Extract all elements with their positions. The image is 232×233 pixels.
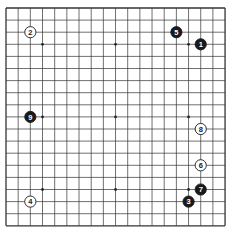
- move-number: 9: [28, 113, 32, 122]
- move-number: 6: [199, 161, 203, 170]
- white-stone: 6: [195, 160, 206, 171]
- move-number: 3: [186, 197, 190, 206]
- black-stone: 7: [195, 184, 206, 195]
- star-point: [187, 43, 190, 46]
- white-stone: 2: [25, 27, 36, 38]
- white-stone: 8: [195, 123, 206, 134]
- black-stone: 5: [171, 27, 182, 38]
- star-point: [187, 116, 190, 119]
- move-number: 5: [174, 28, 178, 37]
- star-point: [41, 43, 44, 46]
- star-point: [41, 188, 44, 191]
- star-point: [187, 188, 190, 191]
- star-point: [114, 43, 117, 46]
- move-number: 2: [28, 28, 32, 37]
- move-number: 1: [199, 40, 203, 49]
- star-point: [41, 116, 44, 119]
- black-stone: 9: [25, 111, 36, 122]
- move-number: 8: [199, 125, 203, 134]
- go-board: 123456789: [0, 0, 232, 233]
- black-stone: 3: [183, 196, 194, 207]
- star-point: [114, 116, 117, 119]
- star-point: [114, 188, 117, 191]
- move-number: 7: [199, 185, 203, 194]
- white-stone: 4: [25, 196, 36, 207]
- black-stone: 1: [195, 39, 206, 50]
